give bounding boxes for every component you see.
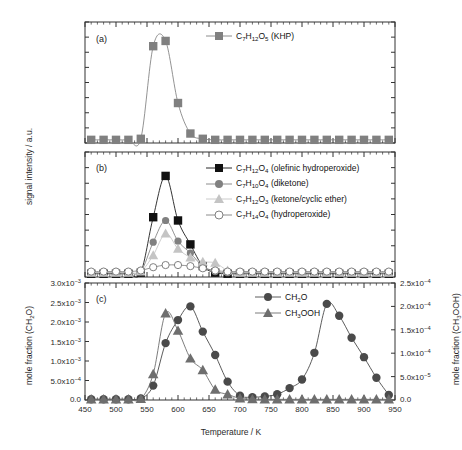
panel-tag-c: (c) [96,294,107,304]
legend-item-b3: C7H14O4 (hydroperoxide) [206,209,330,221]
legend-marker-circle-icon [255,291,281,303]
legend-item-b1: C7H10O4 (diketone) [206,178,309,190]
legend-marker-circle-icon [206,178,232,190]
ytick-label-left: 1.0x10−3 [28,356,81,366]
xtick-label: 900 [354,405,374,414]
legend-label: CH2O [285,292,307,303]
legend-marker-triangle-icon [206,193,232,205]
legend-marker-triangle-icon [255,307,281,319]
legend-item-b2: C7H12O3 (ketone/cyclic ether) [206,193,347,205]
legend-label: C7H12O5 (KHP) [236,31,294,42]
xtick-label: 550 [137,405,157,414]
legend-item-c0: CH2O [255,291,307,303]
ytick-label-left: 1.5x10−3 [28,337,81,347]
legend-item-khp: C7H12O5 (KHP) [206,30,294,42]
xtick-label: 750 [261,405,281,414]
xtick-label: 650 [199,405,219,414]
legend-label: C7H10O4 (diketone) [236,178,309,189]
xtick-label: 450 [75,405,95,414]
ytick-label-left: 0.0 [28,395,81,404]
panel-tag-b: (b) [96,163,107,173]
yaxis-label-c-left: mole fraction (CH2O) [24,306,35,385]
xtick-label: 800 [292,405,312,414]
xtick-label: 500 [106,405,126,414]
ytick-label-right: 5.0x10−5 [400,372,431,382]
panel-tag-a: (a) [96,34,107,44]
ytick-label-left: 2.0x10−3 [28,317,81,327]
ytick-label-right: 1.5x10−4 [400,325,431,335]
ytick-label-left: 5.0x10−4 [28,376,81,386]
yaxis-label-c-right: mole fraction (CH3OOH) [451,293,462,385]
legend-marker-open-circle-icon [206,209,232,221]
xtick-label: 700 [230,405,250,414]
xtick-label: 600 [168,405,188,414]
legend-marker-square-icon [206,30,232,42]
figure-root: (a)(b)(c)C7H12O5 (KHP)C7H12O4 (olefinic … [0,0,462,450]
ytick-label-left: 3.0x10−3 [28,278,81,288]
ytick-label-left: 2.5x10−3 [28,298,81,308]
legend-marker-square-icon [206,162,232,174]
yaxis-label-ab: signal intensity / a.u. [24,128,34,205]
legend-label: C7H14O4 (hydroperoxide) [236,209,330,220]
ytick-label-right: 1.0x10−4 [400,348,431,358]
xtick-label: 950 [385,405,405,414]
legend-label: C7H12O3 (ketone/cyclic ether) [236,194,347,205]
ytick-label-right: 2.5x10−4 [400,278,431,288]
ytick-label-right: 2.0x10−4 [400,301,431,311]
xtick-label: 850 [323,405,343,414]
xaxis-label: Temperature / K [0,427,462,437]
ytick-label-right: 0.0 [400,395,411,404]
legend-label: C7H12O4 (olefinic hydroperoxide) [236,163,359,174]
legend-item-b0: C7H12O4 (olefinic hydroperoxide) [206,162,359,174]
legend-label: CH3OOH [285,308,320,319]
legend-item-c1: CH3OOH [255,307,320,319]
